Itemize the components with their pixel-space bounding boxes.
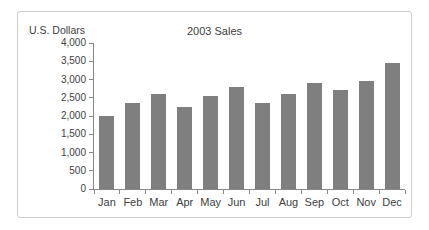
y-tick-label-2000: 2,000 [61,110,86,122]
bar-slot-sep [301,43,327,189]
bar-feb [125,103,140,189]
bar-aug [281,94,296,189]
chart-canvas: U.S. Dollars 2003 Sales 05001,0001,5002,… [0,0,429,230]
month-label-may: May [198,196,224,208]
bar-slot-nov [353,43,379,189]
y-tick-label-2500: 2,500 [61,92,86,104]
y-tick-mark [89,79,93,80]
bar-mar [151,94,166,189]
x-tick-mark [249,190,250,194]
bar-slot-jul [250,43,276,189]
bar-slot-feb [120,43,146,189]
month-label-jun: Jun [224,196,250,208]
y-tick-label-1500: 1,500 [61,128,86,140]
y-tick-mark [89,189,93,190]
y-tick-label-3500: 3,500 [61,55,86,67]
bar-dec [385,63,400,189]
month-label-sep: Sep [301,196,327,208]
x-tick-mark [275,190,276,194]
y-tick-label-500: 500 [69,165,86,177]
x-tick-mark [197,190,198,194]
month-label-feb: Feb [120,196,146,208]
bar-apr [177,107,192,189]
y-tick-mark [89,170,93,171]
month-label-aug: Aug [275,196,301,208]
y-tick-mark [89,116,93,117]
x-tick-mark [379,190,380,194]
bars-container [94,43,405,189]
month-label-jan: Jan [94,196,120,208]
plot-area: 05001,0001,5002,0002,5003,0003,5004,000 … [93,43,405,190]
month-label-apr: Apr [172,196,198,208]
bar-slot-aug [275,43,301,189]
x-axis-labels: JanFebMarAprMayJunJulAugSepOctNovDec [94,196,405,208]
bar-slot-oct [327,43,353,189]
bar-slot-mar [146,43,172,189]
y-tick-mark [89,152,93,153]
y-tick-label-4000: 4,000 [61,37,86,49]
chart-title: 2003 Sales [18,25,411,37]
bar-slot-dec [379,43,405,189]
bar-slot-jan [94,43,120,189]
chart-frame: U.S. Dollars 2003 Sales 05001,0001,5002,… [17,11,412,218]
bar-jan [99,116,114,189]
bar-may [203,96,218,189]
bar-sep [307,83,322,189]
bar-slot-jun [224,43,250,189]
y-tick-label-1000: 1,000 [61,147,86,159]
y-tick-mark [89,61,93,62]
x-tick-mark [94,190,95,194]
bar-jul [255,103,270,189]
x-tick-mark [405,190,406,194]
bar-slot-may [198,43,224,189]
x-tick-mark [327,190,328,194]
bar-oct [333,90,348,189]
y-tick-label-3000: 3,000 [61,74,86,86]
month-label-mar: Mar [146,196,172,208]
y-tick-mark [89,134,93,135]
month-label-jul: Jul [250,196,276,208]
month-label-nov: Nov [353,196,379,208]
bar-jun [229,87,244,189]
y-tick-mark [89,97,93,98]
x-tick-mark [145,190,146,194]
month-label-oct: Oct [327,196,353,208]
x-tick-mark [223,190,224,194]
y-tick-label-0: 0 [80,183,86,195]
x-tick-mark [171,190,172,194]
y-tick-mark [89,43,93,44]
bar-nov [359,81,374,189]
x-tick-mark [119,190,120,194]
bar-slot-apr [172,43,198,189]
month-label-dec: Dec [379,196,405,208]
x-tick-mark [353,190,354,194]
x-tick-mark [301,190,302,194]
